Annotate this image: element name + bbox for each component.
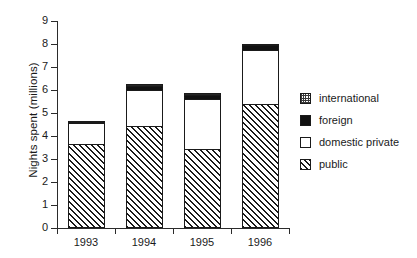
y-axis-tick: 7: [51, 67, 57, 68]
legend-item-label: domestic private: [319, 136, 399, 149]
y-axis-tick-label: 9: [42, 14, 48, 27]
diagonal-hatch-icon: [300, 159, 311, 170]
bar-segment-domestic-private[interactable]: [184, 99, 221, 150]
y-axis-tick-label: 3: [42, 152, 48, 165]
y-axis-tick-label: 4: [42, 129, 48, 142]
x-axis-tick-label: 1996: [231, 236, 289, 249]
bar-segment-public[interactable]: [242, 105, 279, 228]
y-axis-tick-label: 2: [42, 175, 48, 188]
y-axis-tick: 5: [51, 113, 57, 114]
bar-1993[interactable]: [68, 121, 105, 228]
chart-legend: internationalforeigndomestic privatepubl…: [300, 88, 415, 176]
y-axis-tick-label: 8: [42, 37, 48, 50]
bar-segment-public[interactable]: [126, 127, 163, 228]
x-axis-tick: [289, 228, 290, 234]
bar-segment-domestic-private[interactable]: [242, 50, 279, 105]
x-axis-tick: [115, 228, 116, 234]
chart-figure: Nights spent (millions) 0123456789 19931…: [0, 0, 417, 258]
plot-area: 0123456789 1993199419951996: [57, 21, 289, 228]
legend-item-label: international: [319, 92, 379, 105]
solid-white-icon: [300, 137, 311, 148]
x-axis-tick-label: 1995: [173, 236, 231, 249]
bar-segment-public[interactable]: [68, 145, 105, 228]
x-axis-tick: [231, 228, 232, 234]
legend-item-foreign[interactable]: foreign: [300, 110, 415, 130]
y-axis-tick-label: 0: [42, 221, 48, 234]
y-axis-tick: 8: [51, 44, 57, 45]
x-axis-tick-label: 1993: [57, 236, 115, 249]
bar-1996[interactable]: [242, 44, 279, 228]
legend-item-label: public: [319, 158, 348, 171]
y-axis-tick: 4: [51, 136, 57, 137]
solid-black-icon: [300, 115, 311, 126]
y-axis-tick-label: 1: [42, 198, 48, 211]
bar-segment-domestic-private[interactable]: [126, 90, 163, 127]
x-axis-tick: [57, 228, 58, 234]
bar-1995[interactable]: [184, 93, 221, 228]
legend-item-public[interactable]: public: [300, 154, 415, 174]
y-axis-tick: 3: [51, 159, 57, 160]
y-axis-tick: 1: [51, 205, 57, 206]
bar-1994[interactable]: [126, 84, 163, 228]
checkerboard-icon: [300, 93, 311, 104]
legend-item-label: foreign: [319, 114, 353, 127]
y-axis-tick: 9: [51, 21, 57, 22]
y-axis-tick: 6: [51, 90, 57, 91]
legend-item-international[interactable]: international: [300, 88, 415, 108]
y-axis-tick: 2: [51, 182, 57, 183]
x-axis-tick: [173, 228, 174, 234]
y-axis-tick-label: 7: [42, 60, 48, 73]
bar-segment-domestic-private[interactable]: [68, 123, 105, 145]
y-axis-tick-label: 5: [42, 106, 48, 119]
bar-segment-public[interactable]: [184, 150, 221, 228]
x-axis-tick-label: 1994: [115, 236, 173, 249]
y-axis-tick-label: 6: [42, 83, 48, 96]
y-axis-title: Nights spent (millions): [27, 25, 39, 215]
y-axis-line: [57, 21, 58, 229]
legend-item-domestic-private[interactable]: domestic private: [300, 132, 415, 152]
